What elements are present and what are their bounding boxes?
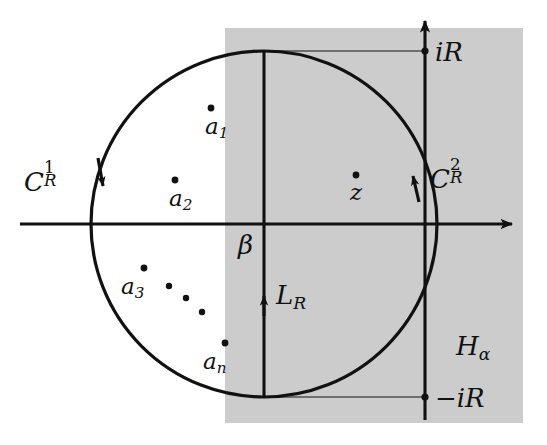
dot-pole-a3 — [141, 265, 148, 272]
label-beta: β — [238, 232, 253, 258]
label-pole-a3-subscript: 3 — [135, 284, 145, 302]
dot-pole-a2 — [172, 177, 179, 184]
dot-pole-an — [222, 340, 229, 347]
label-half-plane-subscript: α — [479, 344, 491, 364]
label-contour-left-arc-subscript: R — [44, 173, 57, 190]
label-pole-an: an — [203, 350, 227, 376]
dot-point-z — [353, 172, 360, 179]
dot-minus-iR — [421, 393, 428, 400]
label-minus-iR: −iR — [435, 385, 485, 411]
dot-ellipsis-1 — [166, 283, 172, 289]
label-contour-right-arc: C2R — [430, 162, 466, 192]
dot-pole-a1 — [208, 105, 215, 112]
label-vertical-segment-subscript: R — [293, 293, 306, 313]
label-pole-an-base: a — [203, 348, 217, 374]
dot-iR — [421, 47, 428, 54]
dot-ellipsis-3 — [199, 309, 205, 315]
label-pole-a2-subscript: 2 — [183, 196, 193, 214]
label-vertical-segment-base: L — [276, 280, 293, 310]
label-point-z: z — [350, 181, 362, 204]
label-pole-a1-subscript: 1 — [219, 124, 229, 142]
label-vertical-segment: LR — [276, 282, 306, 312]
dot-ellipsis-2 — [183, 295, 189, 301]
label-pole-a2: a2 — [169, 187, 192, 213]
label-pole-a1: a1 — [205, 115, 228, 141]
label-contour-left-arc-base: C — [24, 167, 44, 197]
label-pole-an-subscript: n — [217, 359, 227, 377]
label-pole-a2-base: a — [169, 185, 183, 211]
diagram-vector-layer — [0, 0, 547, 445]
label-contour-right-arc-base: C — [430, 164, 450, 194]
label-pole-a3: a3 — [121, 275, 144, 301]
label-contour-left-arc: C1R — [24, 165, 60, 195]
figure-canvas: C1R C2R iR −iR β LR Hα z a1 a2 a3 an — [0, 0, 547, 445]
label-pole-a1-base: a — [205, 113, 219, 139]
label-iR: iR — [435, 39, 463, 65]
label-half-plane-base: H — [456, 331, 479, 361]
label-contour-right-arc-subscript: R — [450, 170, 463, 187]
label-pole-a3-base: a — [121, 273, 135, 299]
label-half-plane: Hα — [456, 333, 490, 363]
